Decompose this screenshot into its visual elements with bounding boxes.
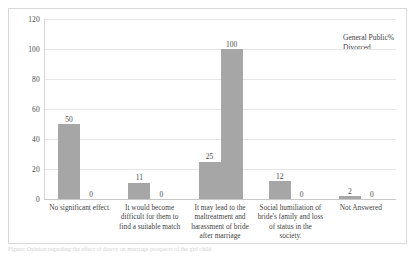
x-axis-labels: No significant effectIt would become dif… — [44, 203, 396, 241]
bar-slot: 2 — [339, 19, 361, 199]
bar-value-label: 50 — [65, 116, 73, 125]
bar-group: 25100 — [185, 19, 255, 199]
y-axis-tick-label: 20 — [32, 165, 45, 174]
bar-group: 20 — [326, 19, 396, 199]
bar-value-label: 0 — [159, 191, 163, 200]
bar-value-label: 11 — [136, 174, 143, 183]
bar-chart-figure: General Public% Divorced 020406080100120… — [0, 0, 415, 257]
x-axis-category-label: No significant effect — [44, 203, 114, 241]
x-axis-category-label: It may lead to the maltreatment and hara… — [185, 203, 255, 241]
bar-value-label: 0 — [300, 191, 304, 200]
bar-value-label: 2 — [348, 188, 352, 197]
bar-slot: 50 — [58, 19, 80, 199]
chart-frame: General Public% Divorced 020406080100120… — [8, 8, 407, 244]
bar-slot: 0 — [291, 19, 313, 199]
bar — [339, 196, 361, 199]
bars-layer: 5001102510012020 — [45, 19, 396, 199]
bar-group: 120 — [256, 19, 326, 199]
x-axis-category-label: It would become difficult for them to fi… — [114, 203, 184, 241]
bar — [269, 181, 291, 199]
bar-slot: 0 — [80, 19, 102, 199]
bar-value-label: 25 — [206, 153, 214, 162]
bar-slot: 12 — [269, 19, 291, 199]
bar-slot: 11 — [128, 19, 150, 199]
y-axis-tick-label: 80 — [32, 75, 45, 84]
y-axis-tick-label: 100 — [28, 45, 45, 54]
bar-value-label: 100 — [226, 41, 237, 50]
y-axis-tick-label: 120 — [28, 15, 45, 24]
bar-slot: 0 — [150, 19, 172, 199]
plot-area: 020406080100120 5001102510012020 — [44, 19, 396, 200]
bar-value-label: 0 — [370, 191, 374, 200]
bar — [199, 162, 221, 200]
x-axis-category-label: Not Answered — [326, 203, 396, 241]
bar-value-label: 12 — [276, 173, 284, 182]
bar-slot: 25 — [199, 19, 221, 199]
bar — [128, 183, 150, 200]
y-axis-tick-label: 40 — [32, 135, 45, 144]
bar — [221, 49, 243, 199]
bar-group: 500 — [45, 19, 115, 199]
bar-slot: 100 — [221, 19, 243, 199]
bar — [58, 124, 80, 199]
bar-value-label: 0 — [89, 191, 93, 200]
x-axis-category-label: Social humiliation of bride's family and… — [255, 203, 325, 241]
bar-group: 110 — [115, 19, 185, 199]
figure-caption: Figure: Opinion regarding the effect of … — [8, 246, 407, 253]
y-axis-tick-label: 60 — [32, 105, 45, 114]
bar-slot: 0 — [361, 19, 383, 199]
